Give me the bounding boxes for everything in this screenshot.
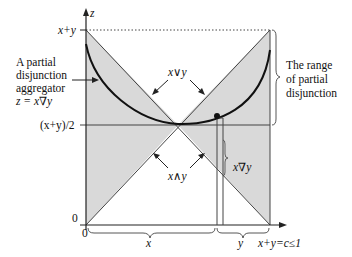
and-region-label: x∧y	[168, 170, 187, 183]
top-value-label: x+y	[58, 24, 76, 37]
range-brace	[272, 30, 280, 125]
aggregator-point	[214, 113, 220, 119]
right-annotation-line1: The range	[286, 59, 332, 72]
x-axis-arrow-icon	[279, 222, 287, 228]
z-axis-label: z	[90, 7, 94, 20]
y-segment-label: y	[238, 237, 243, 250]
left-annotation-line1: A partial	[16, 56, 56, 69]
or-region-label: x∨y	[168, 66, 187, 79]
z-axis-arrow-icon	[83, 8, 89, 16]
right-end-label: x+y=c≤1	[258, 237, 301, 250]
middle-value-label: (x+y)/2	[40, 119, 75, 132]
x-brace	[88, 228, 215, 238]
right-annotation-line3: disjunction	[286, 87, 337, 100]
zero-y-label: 0	[72, 212, 78, 225]
and-arrow-right-head-icon	[198, 153, 205, 159]
left-annotation-line2: disjunction	[16, 69, 67, 82]
left-annotation-line4: z = x∇y	[16, 95, 52, 108]
and-arrow-left-head-icon	[153, 153, 160, 159]
left-annotation-line3: aggregator	[16, 82, 65, 95]
zero-x-label: 0	[82, 227, 88, 240]
right-annotation-line2: of partial	[286, 73, 328, 86]
point-label: x∇y	[233, 161, 251, 174]
x-segment-label: x	[146, 237, 151, 250]
